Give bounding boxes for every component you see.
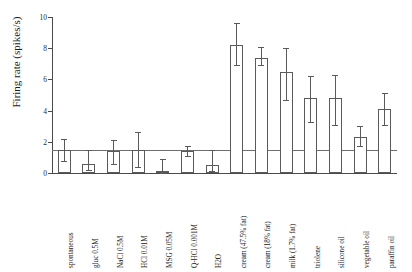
error-bar-cap-upper <box>332 75 338 76</box>
error-bar-cap-upper <box>111 140 117 141</box>
y-tick <box>48 17 52 18</box>
x-axis-labels: spontaneousgluc 0.5MNaCl 0.5MHCl 0.01MMS… <box>52 176 397 272</box>
error-bar-cap-upper <box>185 146 191 147</box>
x-axis-label: paraffin oil <box>388 236 396 268</box>
y-tick-label: 0 <box>43 169 47 178</box>
y-tick <box>48 173 52 174</box>
error-bar-cap-lower <box>382 125 388 126</box>
x-axis-label: spontaneous <box>67 232 75 268</box>
y-tick <box>48 48 52 49</box>
error-bar-cap-lower <box>111 164 117 165</box>
error-bar-cap-upper <box>382 93 388 94</box>
bar-chart: Firing rate (spikes/s) 0246810 spontaneo… <box>0 0 412 272</box>
error-bar-line <box>310 76 311 121</box>
plot-area: 0246810 <box>52 17 397 173</box>
error-bar-cap-upper <box>283 48 289 49</box>
error-bar-line <box>113 140 114 163</box>
y-tick-label: 4 <box>43 106 47 115</box>
error-bar-cap-upper <box>61 139 67 140</box>
y-tick-label: 2 <box>43 137 47 146</box>
error-bar-line <box>335 75 336 125</box>
x-axis-label: milk (1.7% fat) <box>289 224 297 268</box>
error-bar-cap-upper <box>86 150 92 151</box>
error-bar-cap-lower <box>332 125 338 126</box>
x-axis-line <box>52 173 397 174</box>
error-bar-line <box>261 47 262 66</box>
x-axis-label: HCl 0.01M <box>141 235 149 268</box>
error-bar-line <box>162 159 163 173</box>
error-bar-cap-upper <box>160 159 166 160</box>
error-bar-cap-upper <box>258 47 264 48</box>
error-bar-cap-lower <box>234 65 240 66</box>
bar <box>255 58 268 173</box>
y-tick <box>48 111 52 112</box>
error-bar-cap-upper <box>135 132 141 133</box>
y-axis-title: Firing rate (spikes/s) <box>10 0 22 142</box>
error-bar-line <box>88 150 89 170</box>
error-bar-cap-lower <box>160 173 166 174</box>
error-bar-cap-lower <box>258 65 264 66</box>
y-tick <box>48 79 52 80</box>
error-bar-cap-upper <box>234 23 240 24</box>
y-tick-label: 10 <box>40 13 48 22</box>
x-axis-label: cream (47.5% fat) <box>240 216 248 268</box>
error-bar-cap-lower <box>209 171 215 172</box>
x-axis-label: cream (18% fat) <box>264 221 272 268</box>
error-bar-cap-lower <box>283 100 289 101</box>
x-axis-label: triolene <box>314 246 322 268</box>
error-bar-cap-upper <box>357 126 363 127</box>
error-bar-cap-lower <box>357 146 363 147</box>
error-bar-cap-upper <box>209 150 215 151</box>
x-axis-label: NaCl 0.5M <box>117 236 125 268</box>
error-bar-line <box>187 146 188 155</box>
x-axis-label: gluc 0.5M <box>92 238 100 268</box>
error-bar-cap-lower <box>308 122 314 123</box>
y-tick-label: 8 <box>43 44 47 53</box>
error-bar-line <box>384 93 385 124</box>
error-bar-line <box>138 132 139 166</box>
error-bar-line <box>236 23 237 65</box>
y-tick <box>48 142 52 143</box>
error-bar-line <box>286 48 287 99</box>
x-axis-label: Q-HCl 0.001M <box>191 224 199 268</box>
error-bar-cap-lower <box>86 170 92 171</box>
y-tick-label: 6 <box>43 75 47 84</box>
reference-line <box>52 150 397 151</box>
error-bar-line <box>64 139 65 161</box>
x-axis-label: MSG 0.05M <box>166 232 174 268</box>
error-bar-line <box>212 150 213 172</box>
error-bar-cap-lower <box>135 167 141 168</box>
x-axis-label: H2O <box>215 254 223 268</box>
error-bar-cap-lower <box>185 156 191 157</box>
x-axis-label: vegetable oil <box>363 231 371 268</box>
error-bar-cap-upper <box>308 76 314 77</box>
error-bar-line <box>360 126 361 146</box>
error-bar-cap-lower <box>61 161 67 162</box>
x-axis-label: silicone oil <box>338 236 346 268</box>
